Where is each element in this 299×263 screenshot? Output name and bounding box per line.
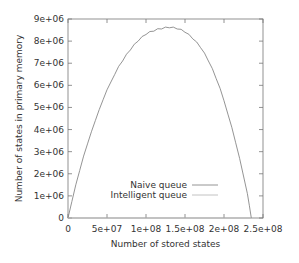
x-tick-label: 1.5e+08 bbox=[166, 224, 205, 234]
x-axis-label: Number of stored states bbox=[111, 239, 221, 249]
x-tick-label: 2e+08 bbox=[209, 224, 240, 234]
y-tick-label: 6e+06 bbox=[34, 80, 65, 90]
y-axis-label: Number of states in primary memory bbox=[14, 34, 24, 202]
y-tick-label: 4e+06 bbox=[34, 125, 65, 135]
legend-label: Naive queue bbox=[130, 180, 187, 190]
x-tick-label: 1e+08 bbox=[131, 224, 162, 234]
y-tick-labels: 01e+062e+063e+064e+065e+066e+067e+068e+0… bbox=[34, 14, 65, 223]
y-tick-label: 1e+06 bbox=[34, 191, 65, 201]
x-tick-labels: 05e+071e+081.5e+082e+082.5e+08 bbox=[65, 224, 283, 234]
y-tick-label: 5e+06 bbox=[34, 102, 65, 112]
legend: Naive queueIntelligent queue bbox=[111, 180, 218, 200]
x-tick-label: 5e+07 bbox=[92, 224, 122, 234]
legend-label: Intelligent queue bbox=[111, 190, 188, 200]
y-tick-label: 8e+06 bbox=[34, 36, 65, 46]
y-tick-label: 0 bbox=[58, 213, 64, 223]
y-tick-label: 7e+06 bbox=[34, 58, 65, 68]
y-tick-label: 2e+06 bbox=[34, 169, 65, 179]
x-tick-label: 2.5e+08 bbox=[244, 224, 283, 234]
chart: 01e+062e+063e+064e+065e+066e+067e+068e+0… bbox=[0, 0, 299, 263]
y-tick-label: 3e+06 bbox=[34, 147, 65, 157]
x-tick-label: 0 bbox=[65, 224, 71, 234]
y-tick-label: 9e+06 bbox=[34, 14, 65, 24]
